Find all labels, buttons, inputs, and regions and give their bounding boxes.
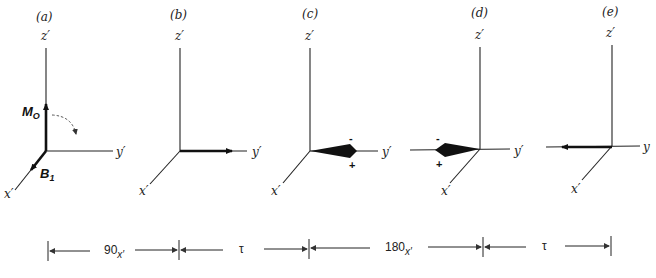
panel-b-label: (b) <box>170 8 187 22</box>
x-axis-label: x′ <box>139 184 149 198</box>
x-axis-label: x′ <box>271 184 281 198</box>
z-axis-label: z′ <box>605 26 615 40</box>
z-axis-label: z′ <box>304 29 314 43</box>
panel-a-label: (a) <box>36 10 53 24</box>
y-axis-label: y′ <box>115 145 126 159</box>
dephasing-fan-icon <box>310 144 357 158</box>
x-axis-label: x′ <box>571 182 581 196</box>
panel-d-label: (d) <box>471 6 488 20</box>
panel-c: (c) z′ y′ x′ - + <box>271 7 392 198</box>
panel-a: (a) z′ y′ x′ MO B1 <box>4 10 126 201</box>
timeline-label-tau: τ <box>239 242 244 256</box>
dephasing-fan-icon <box>435 143 480 157</box>
x-axis-label: x′ <box>4 187 14 201</box>
panel-b: (b) z′ y′ x′ <box>139 8 262 198</box>
y-axis-label: y′ <box>381 145 392 159</box>
plus-sign: + <box>436 158 442 170</box>
timeline-label-180x: 180x′ <box>385 240 413 257</box>
x-axis <box>582 146 612 180</box>
y-axis-label: y′ <box>513 144 524 158</box>
y-axis-label: y <box>642 140 650 154</box>
pulse-timeline: 90x′ τ 180x′ τ <box>48 236 611 261</box>
x-axis-label: x′ <box>441 184 451 198</box>
b1-label: B1 <box>40 166 54 183</box>
rotation-arrow-icon <box>52 115 76 134</box>
panel-e-label: (e) <box>602 5 619 19</box>
minus-sign: - <box>436 132 440 144</box>
y-axis-label: y′ <box>251 145 262 159</box>
panel-e: (e) z′ y x′ <box>546 5 650 196</box>
panel-d: (d) z′ y′ x′ - + <box>410 6 524 198</box>
x-axis <box>150 151 180 184</box>
panel-c-label: (c) <box>302 7 318 21</box>
plus-sign: + <box>349 159 355 171</box>
x-axis <box>283 151 310 183</box>
z-axis-label: z′ <box>40 29 50 43</box>
timeline-label-90x: 90x′ <box>104 243 125 260</box>
spin-echo-diagram: (a) z′ y′ x′ MO B1 (b) z′ y′ x′ (c) z′ y… <box>0 0 656 278</box>
z-axis-label: z′ <box>174 29 184 43</box>
timeline-label-tau: τ <box>542 239 547 253</box>
mo-label: MO <box>22 104 40 121</box>
z-axis-label: z′ <box>474 28 484 42</box>
minus-sign: - <box>349 132 353 144</box>
